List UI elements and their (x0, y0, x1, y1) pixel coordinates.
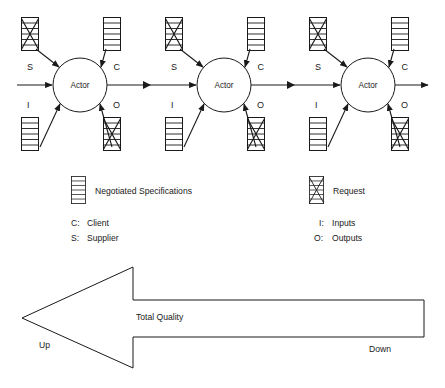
total-quality-arrow: Total Quality Up Down (22, 267, 424, 368)
legend-key-client: C: (71, 218, 80, 228)
diagram-canvas: Actor S C I O Actor S C I O (0, 0, 445, 388)
legend: Negotiated Specifications Request C: Cli… (71, 175, 366, 243)
negotiated-specifications-icon (72, 176, 86, 203)
inputs-in-arrow (40, 104, 60, 147)
legend-value-outputs: Outputs (332, 233, 362, 243)
legend-value-client: Client (87, 218, 110, 228)
quality-arrow-label: Total Quality (136, 312, 184, 322)
port-label-client: C (402, 62, 409, 72)
supplier-in-arrow (180, 49, 203, 67)
quality-arrow-tip-label: Up (39, 340, 50, 350)
request-icon (164, 16, 184, 52)
port-label-supplier: S (171, 62, 177, 72)
negotiated-specifications-icon (248, 18, 265, 51)
port-label-client: C (258, 62, 265, 72)
port-label-outputs: O (113, 100, 120, 110)
actor-label: Actor (214, 81, 233, 90)
diagram-root: Actor S C I O Actor S C I O (0, 0, 445, 388)
legend-key-outputs: O: (314, 233, 323, 243)
request-icon (308, 175, 324, 205)
legend-label-request: Request (333, 186, 366, 196)
actor-cluster-3: Actor S C I O (308, 16, 410, 152)
actor-label: Actor (358, 81, 377, 90)
negotiated-specifications-icon (166, 118, 183, 151)
legend-key-supplier: S: (71, 233, 79, 243)
inputs-in-arrow (184, 104, 204, 147)
client-in-arrow (245, 49, 250, 67)
port-label-outputs: O (401, 100, 408, 110)
actor-cluster-1: Actor S C I O (17, 16, 122, 152)
legend-value-inputs: Inputs (332, 218, 355, 228)
negotiated-specifications-icon (392, 18, 409, 51)
chain-midpoint-arrowhead-2 (287, 81, 295, 89)
port-label-inputs: I (171, 100, 174, 110)
quality-arrow-shape (22, 267, 424, 368)
port-label-inputs: I (315, 100, 318, 110)
legend-label-negotiated-specifications: Negotiated Specifications (95, 186, 192, 196)
client-in-arrow (389, 49, 394, 67)
client-in-arrow (101, 49, 106, 67)
actor-cluster-2: Actor S C I O (164, 16, 266, 152)
negotiated-specifications-icon (22, 118, 39, 151)
legend-value-supplier: Supplier (87, 233, 119, 243)
port-label-supplier: S (27, 62, 33, 72)
supplier-in-arrow (324, 49, 347, 67)
inputs-in-arrow (328, 104, 348, 147)
supplier-in-arrow (36, 49, 59, 67)
chain-midpoint-arrowhead-1 (143, 81, 151, 89)
quality-arrow-tail-label: Down (369, 344, 391, 354)
negotiated-specifications-icon (310, 118, 327, 151)
port-label-outputs: O (257, 100, 264, 110)
port-label-client: C (114, 62, 121, 72)
negotiated-specifications-icon (104, 18, 121, 51)
actor-label: Actor (70, 81, 89, 90)
port-label-supplier: S (315, 62, 321, 72)
legend-key-inputs: I: (319, 218, 324, 228)
request-icon (20, 16, 40, 52)
port-label-inputs: I (27, 100, 30, 110)
request-icon (308, 16, 328, 52)
